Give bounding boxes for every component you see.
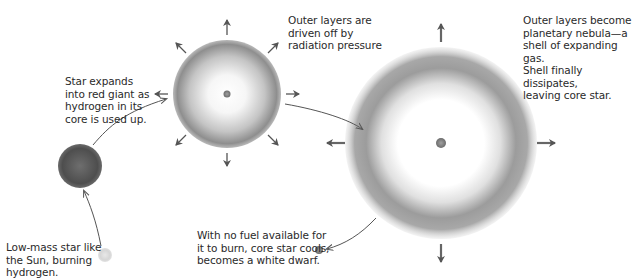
label-line: the Sun, burning <box>6 254 101 267</box>
label-line: shell of expanding gas. <box>523 39 635 64</box>
label-line: into red giant as <box>65 88 149 101</box>
label-line: Shell finally dissipates, <box>523 64 635 89</box>
label-line: driven off by <box>288 27 382 40</box>
nebula-core-star <box>436 138 446 148</box>
label-line: Low-mass star like <box>6 241 101 254</box>
label-line: planetary nebula—a <box>523 27 635 40</box>
planetary-nebula-label: Outer layers become planetary nebula—a s… <box>523 14 635 102</box>
white-dwarf-label: With no fuel available for it to burn, c… <box>197 229 329 267</box>
label-line: Star expands <box>65 75 149 88</box>
label-line: core is used up. <box>65 113 149 126</box>
main-sequence-label: Low-mass star like the Sun, burning hydr… <box>6 241 101 279</box>
label-line: radiation pressure <box>288 39 382 52</box>
label-line: hydrogen in its <box>65 100 149 113</box>
red-giant-label: Star expands into red giant as hydrogen … <box>65 75 149 125</box>
label-line: Outer layers become <box>523 14 635 27</box>
label-line: With no fuel available for <box>197 229 329 242</box>
label-line: Outer layers are <box>288 14 382 27</box>
label-line: hydrogen. <box>6 266 101 279</box>
expanding-star-core <box>224 91 231 98</box>
red-giant-star <box>58 144 102 188</box>
label-line: becomes a white dwarf. <box>197 254 329 267</box>
label-line: leaving core star. <box>523 89 635 102</box>
radiation-pressure-label: Outer layers are driven off by radiation… <box>288 14 382 52</box>
label-line: it to burn, core star cools, <box>197 242 329 255</box>
